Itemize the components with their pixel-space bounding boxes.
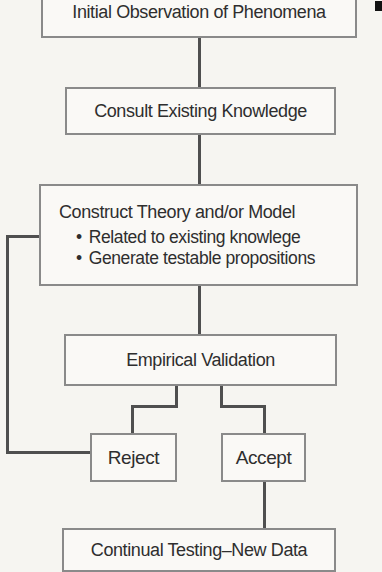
construct-bullet-1-text: Related to existing knowlege xyxy=(89,227,301,247)
node-initial-observation: Initial Observation of Phenomena xyxy=(41,0,357,38)
node-initial-observation-label: Initial Observation of Phenomena xyxy=(72,2,325,23)
bullet-icon: • xyxy=(76,248,82,268)
connector-empirical-accept-entry xyxy=(263,405,266,433)
feedback-into-construct xyxy=(6,235,39,238)
node-continual-testing: Continual Testing–New Data xyxy=(62,528,336,572)
clipped-print-fragment-icon xyxy=(375,1,382,11)
bullet-icon: • xyxy=(76,227,82,247)
connector-empirical-reject-step xyxy=(131,405,178,408)
feedback-reject-horizontal xyxy=(6,451,90,454)
flowchart-canvas: Initial Observation of Phenomena Consult… xyxy=(0,0,382,572)
feedback-vertical xyxy=(6,235,9,454)
node-consult-existing-knowledge: Consult Existing Knowledge xyxy=(65,87,336,135)
node-reject: Reject xyxy=(90,433,177,482)
node-construct-theory: Construct Theory and/or Model • Related … xyxy=(39,184,358,286)
node-consult-label: Consult Existing Knowledge xyxy=(94,101,307,122)
connector-accept-to-continual xyxy=(263,482,266,528)
node-accept-label: Accept xyxy=(236,447,292,469)
connector-initial-to-consult xyxy=(198,38,201,87)
node-accept: Accept xyxy=(221,433,306,482)
node-empirical-label: Empirical Validation xyxy=(126,350,275,371)
connector-construct-to-empirical xyxy=(198,286,201,334)
connector-consult-to-construct xyxy=(198,135,201,184)
construct-bullet-1: • Related to existing knowlege xyxy=(76,227,300,247)
connector-empirical-reject-entry xyxy=(131,405,134,433)
node-reject-label: Reject xyxy=(108,447,159,469)
node-construct-title: Construct Theory and/or Model xyxy=(59,202,295,223)
node-continual-label: Continual Testing–New Data xyxy=(91,540,307,561)
construct-bullet-2: • Generate testable propositions xyxy=(76,248,315,268)
node-empirical-validation: Empirical Validation xyxy=(64,334,337,386)
construct-bullet-2-text: Generate testable propositions xyxy=(89,248,315,268)
connector-empirical-accept-step xyxy=(220,405,266,408)
